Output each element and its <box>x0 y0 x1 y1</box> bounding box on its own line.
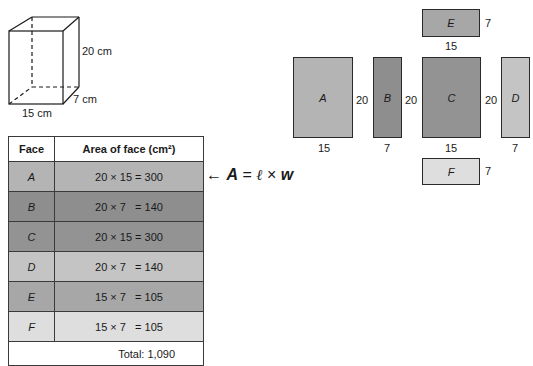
prism-depth-label: 7 cm <box>73 93 97 105</box>
face-d-width-label: 7 <box>512 142 518 154</box>
prism-width-label: 15 cm <box>22 107 52 119</box>
area-cell: 15 × 7 = 105 <box>55 312 204 342</box>
prism-height-label: 20 cm <box>82 45 112 57</box>
area-cell: 20 × 7 = 140 <box>55 192 204 222</box>
prism-front-face <box>9 31 63 104</box>
face-cell: A <box>9 162 55 192</box>
face-a-width-label: 15 <box>318 142 330 154</box>
total-cell: Total: 1,090 <box>9 342 204 366</box>
face-b-width-label: 7 <box>384 142 390 154</box>
formula-times: × <box>267 166 276 183</box>
net-face-b: B <box>373 57 402 138</box>
header-face: Face <box>9 137 55 162</box>
table-total-row: Total: 1,090 <box>9 342 204 366</box>
face-area-table: Face Area of face (cm²) A 20 × 15 = 300 … <box>8 136 204 366</box>
formula-area-symbol: A <box>226 166 238 183</box>
table-row: B 20 × 7 = 140 <box>9 192 204 222</box>
face-cell: D <box>9 252 55 282</box>
face-b-height-label: 20 <box>405 94 417 106</box>
table-row: E 15 × 7 = 105 <box>9 282 204 312</box>
area-cell: 15 × 7 = 105 <box>55 282 204 312</box>
face-a-height-label: 20 <box>356 94 368 106</box>
net-face-f: F <box>422 158 480 185</box>
net-face-c: C <box>422 57 481 138</box>
face-label: A <box>319 92 326 104</box>
net-face-d: D <box>501 57 530 138</box>
left-arrow-icon: ← <box>206 166 222 183</box>
formula-equals: = <box>242 166 251 183</box>
face-label: E <box>447 17 454 29</box>
header-area: Area of face (cm²) <box>55 137 204 162</box>
table-row: F 15 × 7 = 105 <box>9 312 204 342</box>
net-face-a: A <box>293 57 353 138</box>
face-cell: C <box>9 222 55 252</box>
table-row: D 20 × 7 = 140 <box>9 252 204 282</box>
face-label: D <box>512 92 520 104</box>
table-row: C 20 × 15 = 300 <box>9 222 204 252</box>
face-e-width-label: 15 <box>445 40 457 52</box>
area-cell: 20 × 15 = 300 <box>55 222 204 252</box>
area-cell: 20 × 7 = 140 <box>55 252 204 282</box>
face-label: F <box>448 166 455 178</box>
face-c-width-label: 15 <box>445 142 457 154</box>
area-cell: 20 × 15 = 300 <box>55 162 204 192</box>
face-cell: F <box>9 312 55 342</box>
face-cell: E <box>9 282 55 312</box>
table-row: A 20 × 15 = 300 <box>9 162 204 192</box>
formula-length-symbol: ℓ <box>256 166 262 184</box>
rectangular-prism-diagram <box>0 0 130 125</box>
area-formula: ← A = ℓ × w <box>206 165 293 185</box>
face-cell: B <box>9 192 55 222</box>
face-e-height-label: 7 <box>485 17 491 29</box>
table-header-row: Face Area of face (cm²) <box>9 137 204 162</box>
face-label: B <box>384 92 391 104</box>
formula-width-symbol: w <box>281 166 293 183</box>
net-face-e: E <box>422 9 480 37</box>
face-label: C <box>448 92 456 104</box>
face-c-height-label: 20 <box>485 94 497 106</box>
face-f-height-label: 7 <box>485 165 491 177</box>
